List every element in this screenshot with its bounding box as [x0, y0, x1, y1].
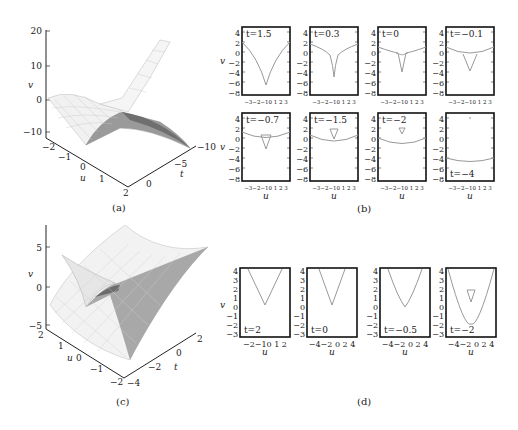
- svg-text:3: 3: [233, 276, 238, 285]
- svg-text:−6: −6: [228, 79, 240, 88]
- subplot-label: t=−2: [382, 115, 406, 125]
- svg-text:−2: −2: [296, 59, 308, 68]
- svg-text:−6: −6: [364, 79, 376, 88]
- svg-text:−2: −2: [364, 145, 376, 154]
- u-axis-label: u: [402, 347, 408, 357]
- svg-text:3: 3: [439, 276, 444, 285]
- subplot-label: t=−4: [450, 169, 475, 179]
- svg-text:4: 4: [371, 29, 376, 38]
- svg-text:−6: −6: [296, 79, 308, 88]
- svg-text:−3: −3: [226, 330, 238, 339]
- subplot-label: t=0: [382, 29, 399, 39]
- u-tick: 2: [123, 188, 129, 198]
- svg-text:−3−2−10 1 2 3: −3−2−10 1 2 3: [244, 99, 288, 105]
- svg-text:−8: −8: [296, 89, 308, 98]
- svg-text:2: 2: [303, 125, 308, 134]
- u-axis-label: u: [399, 191, 405, 201]
- u-tick: −2: [110, 377, 123, 387]
- svg-text:−4: −4: [432, 69, 444, 78]
- surface-mesh: [48, 40, 190, 148]
- svg-text:4: 4: [439, 267, 444, 276]
- svg-text:−6: −6: [296, 165, 308, 174]
- svg-text:4: 4: [300, 267, 305, 276]
- svg-text:−8: −8: [228, 175, 240, 184]
- svg-text:2: 2: [439, 125, 444, 134]
- v-tick: 0: [36, 283, 42, 293]
- t-axis-label: t: [174, 362, 178, 372]
- subplot-label: t=0: [311, 325, 328, 335]
- subplot-label: t=0.3: [314, 29, 340, 39]
- u-axis-label: u: [468, 347, 474, 357]
- svg-text:−4: −4: [296, 155, 308, 164]
- v-tick: 10: [31, 61, 43, 71]
- svg-text:0: 0: [373, 303, 378, 312]
- svg-text:−8: −8: [432, 175, 444, 184]
- subplot-label: t=2: [244, 325, 261, 335]
- svg-text:4: 4: [235, 115, 240, 124]
- svg-text:−2: −2: [228, 59, 240, 68]
- u-axis-label: u: [262, 347, 268, 357]
- u-axis-label: u: [80, 173, 86, 183]
- v-axis-label: v: [220, 56, 225, 66]
- subplot-t-0.3: t=0.3: [310, 27, 358, 95]
- subplot-t-minus-0.5: t=−0.5: [380, 268, 430, 337]
- svg-text:2: 2: [439, 285, 444, 294]
- svg-text:4: 4: [371, 115, 376, 124]
- v-axis-label: v: [28, 269, 33, 279]
- svg-text:4: 4: [303, 115, 308, 124]
- svg-text:−2: −2: [364, 59, 376, 68]
- svg-text:0: 0: [235, 49, 240, 58]
- svg-text:2: 2: [303, 39, 308, 48]
- panel-d-caption: (d): [357, 396, 371, 407]
- svg-text:−6: −6: [228, 165, 240, 174]
- v-axis-label: v: [220, 300, 225, 310]
- svg-text:−4: −4: [228, 155, 240, 164]
- svg-text:−4: −4: [228, 69, 240, 78]
- svg-text:2: 2: [373, 285, 378, 294]
- subplot-t-1.5: t=1.5: [242, 27, 290, 95]
- svg-text:−1: −1: [226, 312, 238, 321]
- svg-text:1: 1: [233, 294, 238, 303]
- svg-text:−3−2−10 1 2 3: −3−2−10 1 2 3: [312, 99, 356, 105]
- svg-text:3: 3: [373, 276, 378, 285]
- subplot-t-minus-2: t=−2: [378, 113, 426, 181]
- u-axis-label: u: [467, 191, 473, 201]
- panel-a-3d-surface: 20 10 0 −10 v −2 −1 0 1 2 u 0 −5 −10 t (…: [0, 0, 220, 220]
- svg-text:4: 4: [439, 29, 444, 38]
- v-tick: 5: [36, 243, 42, 253]
- u-tick: −2: [42, 142, 55, 152]
- svg-text:−1: −1: [432, 312, 444, 321]
- svg-text:2: 2: [371, 39, 376, 48]
- subplot-label: t=1.5: [246, 29, 272, 39]
- panel-a-caption: (a): [112, 202, 126, 213]
- v-axis-label: v: [220, 142, 225, 152]
- svg-text:0: 0: [439, 49, 444, 58]
- svg-text:0: 0: [300, 303, 305, 312]
- svg-text:−4: −4: [364, 69, 376, 78]
- subplot-t-2: t=2: [240, 268, 290, 337]
- subplot-t-minus-0.1: t=−0.1: [446, 27, 494, 95]
- svg-text:−8: −8: [364, 175, 376, 184]
- svg-text:−2: −2: [226, 321, 238, 330]
- v-tick: −10: [23, 127, 42, 137]
- svg-text:−2: −2: [432, 59, 444, 68]
- svg-text:2: 2: [233, 285, 238, 294]
- u-axis-label: u: [329, 347, 335, 357]
- svg-text:1: 1: [439, 294, 444, 303]
- svg-text:−4: −4: [432, 155, 444, 164]
- svg-text:4: 4: [439, 115, 444, 124]
- svg-text:0: 0: [371, 135, 376, 144]
- svg-text:−1: −1: [366, 312, 378, 321]
- subplot-t-minus-4: t=−4: [446, 113, 494, 181]
- svg-text:−6: −6: [432, 79, 444, 88]
- v-tick: 20: [31, 26, 43, 36]
- svg-text:−3: −3: [293, 330, 305, 339]
- subplot-t-minus-2: t=−2: [446, 268, 496, 337]
- panel-c-caption: (c): [116, 396, 130, 407]
- svg-text:−4: −4: [364, 155, 376, 164]
- subplot-label: t=−0.5: [384, 325, 417, 335]
- u-axis-label: u: [263, 191, 269, 201]
- v-axis-label: v: [28, 80, 33, 90]
- svg-text:2: 2: [235, 125, 240, 134]
- svg-text:−8: −8: [432, 89, 444, 98]
